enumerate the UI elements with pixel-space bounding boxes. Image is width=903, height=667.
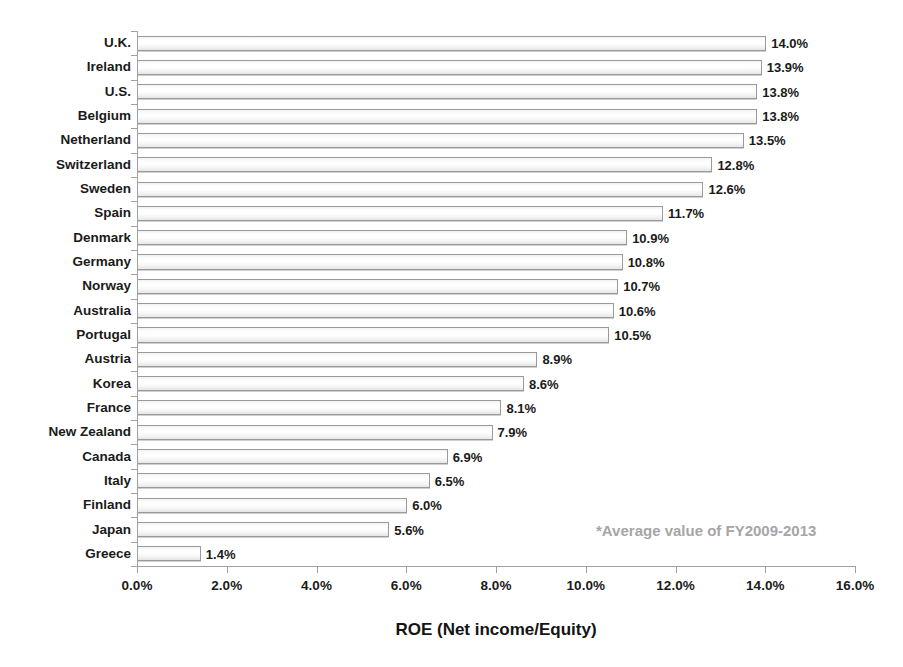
x-axis-tick-label: 8.0%: [456, 578, 536, 593]
bar: [138, 376, 524, 391]
category-tick: [131, 493, 137, 494]
category-label: Korea: [0, 377, 131, 391]
x-axis-tick: [317, 566, 318, 573]
category-tick: [131, 274, 137, 275]
x-axis-tick: [765, 566, 766, 573]
category-label: Spain: [0, 206, 131, 220]
bar: [138, 425, 493, 440]
x-axis-tick-label: 14.0%: [725, 578, 805, 593]
x-axis-tick-label: 4.0%: [277, 578, 357, 593]
bar: [138, 133, 744, 148]
category-label: Japan: [0, 523, 131, 537]
bar-row: 1.4%: [138, 546, 856, 561]
x-axis-title: ROE (Net income/Equity): [137, 620, 855, 640]
bar: [138, 60, 762, 75]
category-label: Portugal: [0, 328, 131, 342]
bar-value-label: 10.5%: [609, 327, 651, 342]
bar-value-label: 11.7%: [663, 206, 704, 221]
category-tick: [131, 80, 137, 81]
bar-value-label: 10.8%: [623, 255, 665, 270]
category-tick: [131, 566, 137, 567]
x-axis-tick: [227, 566, 228, 573]
bar: [138, 449, 448, 464]
bar: [138, 254, 623, 269]
bar-value-label: 8.6%: [524, 376, 559, 391]
category-tick: [131, 153, 137, 154]
x-axis-tick: [586, 566, 587, 573]
x-axis-tick: [496, 566, 497, 573]
bar: [138, 182, 703, 197]
bar-row: 7.9%: [138, 425, 856, 440]
bar-row: 13.8%: [138, 84, 856, 99]
bar-value-label: 7.9%: [493, 425, 528, 440]
category-label: Denmark: [0, 231, 131, 245]
category-tick: [131, 420, 137, 421]
category-tick: [131, 396, 137, 397]
bar-row: 10.9%: [138, 230, 856, 245]
x-axis-tick-label: 2.0%: [187, 578, 267, 593]
x-axis-tick-label: 10.0%: [546, 578, 626, 593]
x-axis-tick: [676, 566, 677, 573]
bar: [138, 400, 501, 415]
bar-row: 10.5%: [138, 327, 856, 342]
category-tick: [131, 299, 137, 300]
bar: [138, 498, 407, 513]
bar-row: 13.9%: [138, 60, 856, 75]
category-label: Germany: [0, 255, 131, 269]
category-label: Belgium: [0, 109, 131, 123]
bar: [138, 206, 663, 221]
category-label: New Zealand: [0, 425, 131, 439]
category-tick: [131, 31, 137, 32]
category-label: Norway: [0, 279, 131, 293]
category-tick: [131, 444, 137, 445]
bar-row: 11.7%: [138, 206, 856, 221]
bar-row: 10.6%: [138, 303, 856, 318]
category-tick: [131, 323, 137, 324]
x-axis-tick-label: 6.0%: [366, 578, 446, 593]
bar-value-label: 13.9%: [762, 60, 804, 75]
bar-row: 6.9%: [138, 449, 856, 464]
bar-row: 8.1%: [138, 400, 856, 415]
category-tick: [131, 347, 137, 348]
plot-area: 14.0%13.9%13.8%13.8%13.5%12.8%12.6%11.7%…: [137, 31, 856, 566]
bar-value-label: 1.4%: [201, 546, 236, 561]
category-tick: [131, 517, 137, 518]
x-axis-tick: [855, 566, 856, 573]
bar: [138, 327, 609, 342]
category-tick: [131, 250, 137, 251]
bar-value-label: 5.6%: [389, 522, 424, 537]
bar: [138, 473, 430, 488]
category-label: Ireland: [0, 60, 131, 74]
category-label: Finland: [0, 498, 131, 512]
bar-row: 10.7%: [138, 279, 856, 294]
bar-row: 14.0%: [138, 36, 856, 51]
category-label: Switzerland: [0, 158, 131, 172]
bar-value-label: 14.0%: [766, 36, 808, 51]
bar-row: 10.8%: [138, 254, 856, 269]
bar-value-label: 8.1%: [501, 400, 536, 415]
bar-value-label: 13.5%: [744, 133, 786, 148]
category-label: France: [0, 401, 131, 415]
category-label: U.K.: [0, 36, 131, 50]
category-axis-labels: U.K.IrelandU.S.BelgiumNetherlandSwitzerl…: [0, 31, 131, 566]
category-tick: [131, 55, 137, 56]
category-label: Italy: [0, 474, 131, 488]
bar: [138, 522, 389, 537]
bar-value-label: 12.6%: [703, 182, 745, 197]
bar: [138, 36, 766, 51]
bar: [138, 109, 757, 124]
bar-value-label: 10.9%: [627, 230, 669, 245]
bar-value-label: 10.7%: [618, 279, 660, 294]
bar: [138, 303, 614, 318]
x-axis-tick-label: 16.0%: [815, 578, 895, 593]
roe-bar-chart: U.K.IrelandU.S.BelgiumNetherlandSwitzerl…: [0, 0, 903, 667]
bar-value-label: 10.6%: [614, 303, 656, 318]
category-tick: [131, 128, 137, 129]
x-axis-tick: [137, 566, 138, 573]
bar: [138, 279, 618, 294]
category-tick: [131, 201, 137, 202]
bar: [138, 352, 537, 367]
category-tick: [131, 104, 137, 105]
bar-row: 12.6%: [138, 182, 856, 197]
category-tick: [131, 469, 137, 470]
